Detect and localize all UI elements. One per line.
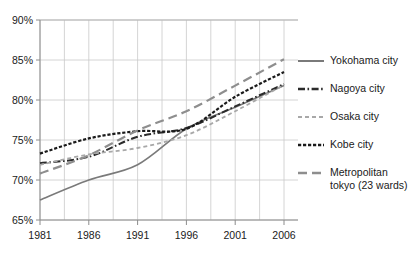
- x-axis: 198119861991199620012006: [28, 220, 296, 241]
- y-tick-label: 75%: [12, 134, 33, 146]
- y-tick-label: 85%: [12, 54, 33, 66]
- x-tick-label: 1996: [175, 229, 199, 241]
- legend-swatch-yokohama-city-icon: [298, 55, 324, 67]
- chart-figure: 65%70%75%80%85%90%1981198619911996200120…: [0, 0, 413, 268]
- y-tick-label: 65%: [12, 214, 33, 226]
- y-axis: 65%70%75%80%85%90%: [12, 14, 40, 226]
- legend-entry[interactable]: Yokohama city: [298, 54, 413, 67]
- legend-entry[interactable]: Nagoya city: [298, 82, 413, 95]
- gridlines: [40, 20, 298, 220]
- legend-swatch-metropolitan-tokyo-23-wards-icon: [298, 167, 324, 179]
- legend-label: Osaka city: [330, 110, 379, 123]
- legend-entry[interactable]: Metropolitan tokyo (23 wards): [298, 166, 413, 191]
- legend-swatch-kobe-city-icon: [298, 139, 324, 151]
- legend-entry[interactable]: Kobe city: [298, 138, 413, 151]
- legend-label: Kobe city: [330, 138, 373, 151]
- x-tick-label: 2001: [224, 229, 248, 241]
- y-tick-label: 70%: [12, 174, 33, 186]
- x-tick-label: 2006: [272, 229, 296, 241]
- x-tick-label: 1991: [126, 229, 150, 241]
- x-tick-label: 1981: [28, 229, 52, 241]
- y-tick-label: 80%: [12, 94, 33, 106]
- legend-label: Metropolitan tokyo (23 wards): [330, 166, 408, 191]
- legend-swatch-nagoya-city-icon: [298, 83, 324, 95]
- legend-label: Yokohama city: [330, 54, 398, 67]
- chart-legend: Yokohama cityNagoya cityOsaka cityKobe c…: [298, 54, 413, 206]
- legend-label: Nagoya city: [330, 82, 385, 95]
- y-tick-label: 90%: [12, 14, 33, 26]
- legend-entry[interactable]: Osaka city: [298, 110, 413, 123]
- x-tick-label: 1986: [77, 229, 101, 241]
- legend-swatch-osaka-city-icon: [298, 111, 324, 123]
